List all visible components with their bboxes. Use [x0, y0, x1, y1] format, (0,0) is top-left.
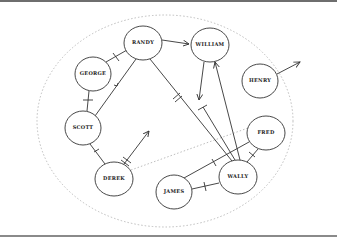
node-label-james: JAMES — [163, 188, 185, 195]
edge-scott-derek — [90, 144, 105, 164]
edge-henry-out — [277, 62, 300, 74]
edge-randy-william — [162, 40, 189, 44]
node-label-randy: RANDY — [132, 39, 154, 45]
bar-mark — [198, 105, 207, 110]
edge-george-scott — [87, 91, 89, 111]
edge-wally-william — [215, 62, 240, 160]
edge-randy-wally — [150, 59, 232, 161]
node-label-henry: HENRY — [249, 77, 271, 83]
edge-william-down — [199, 62, 204, 100]
edge-derek-out — [124, 131, 149, 164]
node-label-george: GEORGE — [80, 70, 106, 76]
node-label-derek: DEREK — [103, 175, 125, 181]
node-label-william: WILLIAM — [195, 41, 225, 47]
node-label-scott: SCOTT — [73, 124, 94, 130]
mid-arrow-mark — [114, 83, 118, 86]
node-label-fred: FRED — [257, 129, 274, 135]
edge-george-randy — [106, 50, 127, 62]
sociogram-canvas: RANDY WILLIAM GEORGE HENRY SCOTT FRED DE… — [0, 0, 337, 237]
node-label-wally: WALLY — [227, 173, 249, 179]
